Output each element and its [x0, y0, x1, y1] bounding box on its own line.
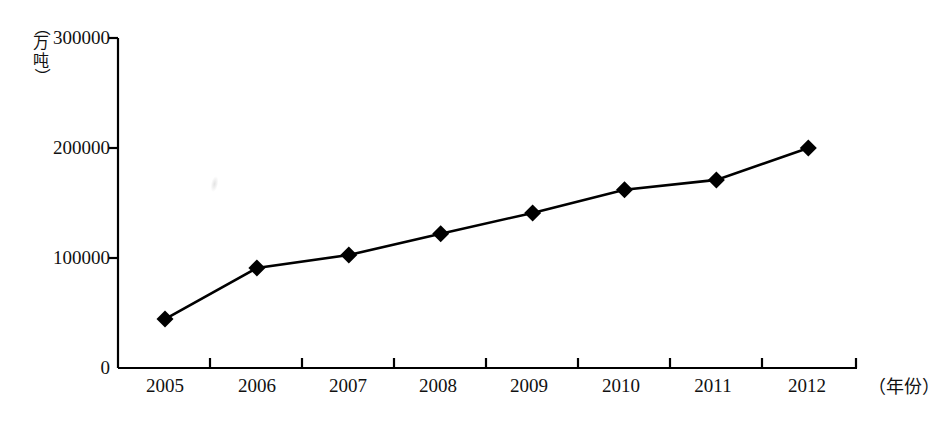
plot-area — [0, 0, 944, 436]
series-polyline — [165, 148, 808, 319]
line-chart: （ 万 吨 ） 300000 200000 100000 0 2005 2006… — [0, 0, 944, 436]
data-point-2010 — [616, 181, 633, 198]
data-point-2007 — [340, 247, 357, 264]
data-point-2012 — [800, 140, 817, 157]
data-series — [157, 140, 817, 328]
data-point-2006 — [248, 259, 265, 276]
data-point-2011 — [708, 171, 725, 188]
data-point-2008 — [432, 225, 449, 242]
data-point-2009 — [524, 204, 541, 221]
data-point-2005 — [157, 311, 174, 328]
series-markers — [157, 140, 817, 328]
